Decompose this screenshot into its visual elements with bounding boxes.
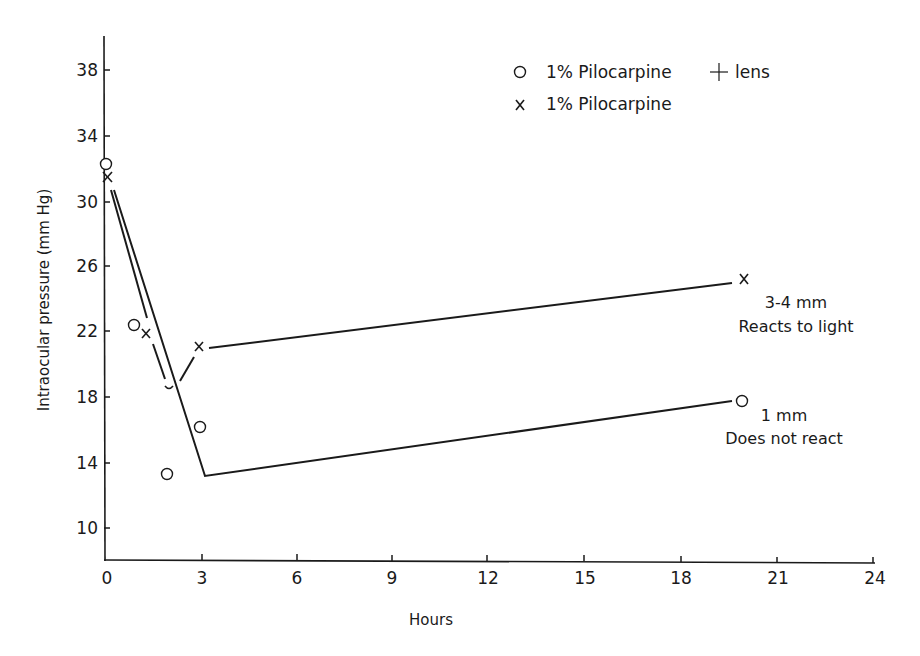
x-marker-icon (142, 329, 150, 338)
y-tick-label: 18 (76, 387, 98, 407)
x-axis-title: Hours (409, 611, 453, 629)
circle-marker-icon (101, 159, 112, 170)
legend-label-no-lens: 1% Pilocarpine (546, 94, 672, 114)
circle-marker-icon (129, 320, 140, 331)
y-axis-title: Intraocular pressure (mm Hg) (35, 189, 53, 411)
x-fit-segment (153, 344, 165, 379)
legend-x-icon (516, 100, 524, 110)
x-tick-label: 3 (197, 568, 208, 588)
circle-marker-icon (737, 396, 748, 407)
annotation-pupil-size-lower: 1 mm (761, 406, 807, 425)
circle-marker-icon (162, 469, 173, 480)
x-tick-label: 6 (292, 568, 303, 588)
x-tick-label: 21 (767, 568, 789, 588)
x-tick-label: 18 (670, 568, 692, 588)
chart-canvas: 38 34 30 26 22 18 14 10 Intraocular pres… (0, 0, 920, 656)
y-tick-label: 30 (76, 192, 98, 212)
x-tick-label: 15 (574, 568, 596, 588)
y-tick-label: 10 (76, 518, 98, 538)
x-axis: 0 3 6 9 12 15 18 21 24 Hours (102, 554, 886, 629)
x-marker-icon (165, 386, 173, 389)
y-tick-label: 14 (76, 453, 98, 473)
x-tick-label: 24 (864, 568, 886, 588)
series-pilocarpine (103, 172, 748, 389)
x-marker-icon (740, 274, 748, 284)
x-tick-label: 12 (477, 568, 499, 588)
legend-label-lens: 1% Pilocarpine (546, 62, 672, 82)
legend-circle-icon (515, 67, 526, 78)
series-pilocarpine-lens (101, 159, 748, 480)
x-tick-label: 0 (102, 568, 113, 588)
annotations: 3-4 mm Reacts to light 1 mm Does not rea… (725, 293, 853, 448)
x-fit-segment (209, 283, 732, 348)
annotation-reaction-upper: Reacts to light (738, 317, 853, 336)
y-tick-label: 22 (76, 321, 98, 341)
x-fit-segment (111, 190, 147, 318)
annotation-pupil-size-upper: 3-4 mm (765, 293, 827, 312)
plus-icon (710, 63, 728, 81)
x-fit-segment (180, 357, 194, 381)
y-axis: 38 34 30 26 22 18 14 10 Intraocular pres… (35, 36, 110, 561)
x-marker-icon (195, 342, 203, 351)
y-tick-label: 26 (76, 256, 98, 276)
circle-marker-icon (195, 422, 206, 433)
legend: 1% Pilocarpine lens 1% Pilocarpine (515, 62, 770, 114)
annotation-reaction-lower: Does not react (725, 429, 843, 448)
x-tick-label: 9 (387, 568, 398, 588)
y-tick-label: 34 (76, 126, 98, 146)
y-tick-label: 38 (76, 60, 98, 80)
lens-fit-line (114, 190, 732, 476)
legend-label-lens-suffix: lens (735, 62, 770, 82)
